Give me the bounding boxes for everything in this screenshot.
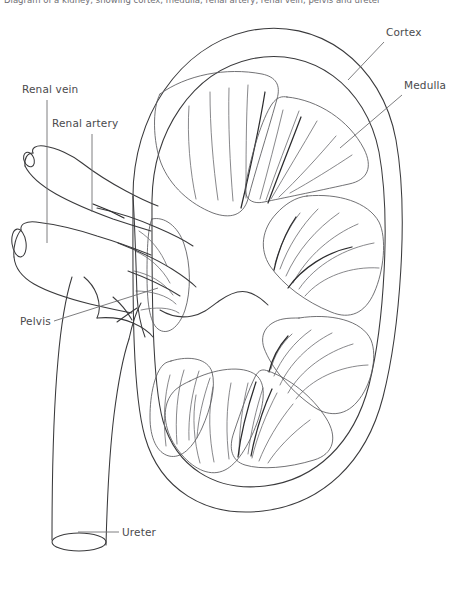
leader-line-cortex xyxy=(348,42,384,80)
medullary-pyramids xyxy=(134,71,384,472)
leader-line-pelvis xyxy=(54,288,158,321)
renal-vein xyxy=(10,222,196,313)
label-pelvis: Pelvis xyxy=(20,315,51,327)
medullary-pyramid-4 xyxy=(263,316,374,413)
medullary-pyramid-2 xyxy=(245,97,368,203)
label-renal-artery: Renal artery xyxy=(52,117,118,129)
leader-line-medulla xyxy=(340,95,402,148)
medullary-pyramid-1 xyxy=(154,71,278,215)
medullary-pyramid-3 xyxy=(263,195,383,315)
cortex-inner-boundary xyxy=(152,57,385,487)
label-renal-vein: Renal vein xyxy=(22,83,78,95)
kidney-diagram: Cortex Medulla Renal vein Renal artery P… xyxy=(0,0,455,590)
medullary-pyramid-5 xyxy=(231,370,332,468)
label-ureter: Ureter xyxy=(122,526,157,538)
label-group: Cortex Medulla Renal vein Renal artery P… xyxy=(20,26,446,538)
pelvis-funnel xyxy=(84,277,153,337)
label-cortex: Cortex xyxy=(386,26,422,38)
label-medulla: Medulla xyxy=(404,79,446,91)
label-leader-lines xyxy=(47,42,402,532)
